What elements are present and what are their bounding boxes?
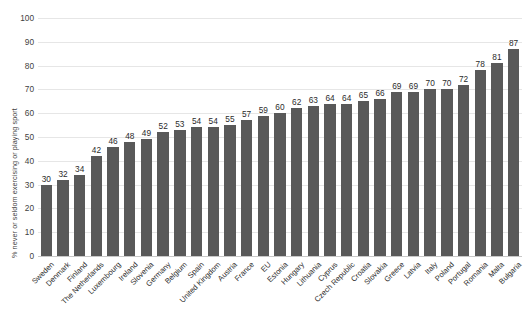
bar-value-label: 55	[225, 114, 234, 124]
bar[interactable]	[41, 185, 52, 256]
bar-slot: 81	[489, 18, 506, 256]
y-axis-tick-label: 80	[6, 61, 34, 71]
bar[interactable]	[124, 142, 135, 256]
bar-slot: 48	[121, 18, 138, 256]
bar-value-label: 42	[92, 145, 101, 155]
y-axis-tick-label: 10	[6, 227, 34, 237]
bar-slot: 62	[288, 18, 305, 256]
bar[interactable]	[157, 132, 168, 256]
bar-value-label: 59	[259, 105, 268, 115]
bar-value-label: 60	[275, 102, 284, 112]
bar-value-label: 72	[459, 74, 468, 84]
bar[interactable]	[274, 113, 285, 256]
bar-value-label: 62	[292, 97, 301, 107]
bar-value-label: 30	[42, 174, 51, 184]
bar-slot: 42	[88, 18, 105, 256]
bar-slot: 69	[405, 18, 422, 256]
bar-slot: 54	[205, 18, 222, 256]
bar-series: 3032344246484952535454555759606263646465…	[38, 18, 522, 256]
bar[interactable]	[491, 63, 502, 256]
bar-value-label: 52	[159, 121, 168, 131]
bar-slot: 63	[305, 18, 322, 256]
bar-value-label: 34	[75, 164, 84, 174]
bar[interactable]	[57, 180, 68, 256]
y-axis-tick-label: 0	[6, 251, 34, 261]
bar[interactable]	[324, 104, 335, 256]
bar-value-label: 48	[125, 131, 134, 141]
bar-value-label: 69	[392, 81, 401, 91]
bar[interactable]	[341, 104, 352, 256]
bar[interactable]	[91, 156, 102, 256]
bar-slot: 65	[355, 18, 372, 256]
y-axis-tick-label: 20	[6, 203, 34, 213]
bar-value-label: 70	[426, 78, 435, 88]
bar[interactable]	[224, 125, 235, 256]
bar-value-label: 69	[409, 81, 418, 91]
bar[interactable]	[291, 108, 302, 256]
y-axis-tick-label: 90	[6, 37, 34, 47]
bar-slot: 46	[105, 18, 122, 256]
bar-slot: 60	[272, 18, 289, 256]
bar-slot: 59	[255, 18, 272, 256]
y-axis-tick-label: 40	[6, 156, 34, 166]
bar[interactable]	[107, 147, 118, 256]
bar-slot: 72	[455, 18, 472, 256]
x-axis-tick-label: Latvia	[402, 260, 423, 281]
bar-slot: 52	[155, 18, 172, 256]
bar[interactable]	[458, 85, 469, 256]
bar-slot: 32	[55, 18, 72, 256]
bar[interactable]	[241, 120, 252, 256]
bar-slot: 49	[138, 18, 155, 256]
bar-value-label: 81	[492, 52, 501, 62]
bar-slot: 78	[472, 18, 489, 256]
bar-value-label: 64	[325, 93, 334, 103]
bar-value-label: 66	[375, 88, 384, 98]
bar-slot: 70	[422, 18, 439, 256]
y-axis-tick-label: 60	[6, 108, 34, 118]
bar-value-label: 46	[108, 136, 117, 146]
bar[interactable]	[441, 89, 452, 256]
y-axis-tick-label: 70	[6, 84, 34, 94]
bar-slot: 57	[238, 18, 255, 256]
bar[interactable]	[508, 49, 519, 256]
bar[interactable]	[74, 175, 85, 256]
y-axis-tick-label: 30	[6, 180, 34, 190]
bar[interactable]	[408, 92, 419, 256]
bar[interactable]	[174, 130, 185, 256]
bar-value-label: 78	[476, 59, 485, 69]
bar-slot: 55	[222, 18, 239, 256]
bar-slot: 64	[322, 18, 339, 256]
bar-value-label: 57	[242, 109, 251, 119]
bar-value-label: 87	[509, 38, 518, 48]
bar-value-label: 32	[58, 169, 67, 179]
bar[interactable]	[391, 92, 402, 256]
bar-chart: % never or seldom exercising or playing …	[0, 0, 530, 334]
bar-slot: 34	[71, 18, 88, 256]
bar-value-label: 53	[175, 119, 184, 129]
bar[interactable]	[208, 127, 219, 256]
bar-slot: 54	[188, 18, 205, 256]
bar[interactable]	[141, 139, 152, 256]
bar-slot: 70	[439, 18, 456, 256]
bar-slot: 66	[372, 18, 389, 256]
bar[interactable]	[258, 116, 269, 256]
x-axis-tick-labels: SwedenDenmarkFinlandThe NetherlandsLuxem…	[38, 258, 522, 334]
bar[interactable]	[475, 70, 486, 256]
bar-value-label: 49	[142, 128, 151, 138]
bar[interactable]	[424, 89, 435, 256]
bar-value-label: 70	[442, 78, 451, 88]
bar[interactable]	[191, 127, 202, 256]
bar-value-label: 65	[359, 90, 368, 100]
bar-value-label: 54	[209, 116, 218, 126]
bar-slot: 69	[388, 18, 405, 256]
bar[interactable]	[358, 101, 369, 256]
bar-slot: 87	[505, 18, 522, 256]
bar-slot: 64	[338, 18, 355, 256]
bar-value-label: 64	[342, 93, 351, 103]
gridline	[38, 256, 522, 257]
bar-slot: 53	[172, 18, 189, 256]
bar[interactable]	[308, 106, 319, 256]
y-axis-tick-label: 100	[6, 13, 34, 23]
y-axis-tick-label: 50	[6, 132, 34, 142]
bar[interactable]	[374, 99, 385, 256]
